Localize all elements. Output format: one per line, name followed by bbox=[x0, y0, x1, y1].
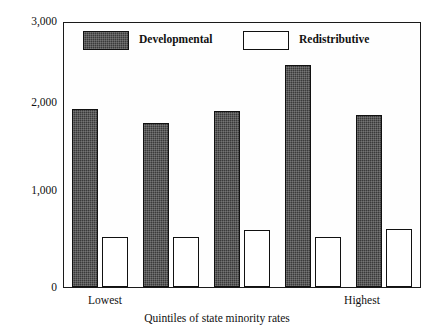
x-axis-label-lowest: Lowest bbox=[70, 294, 140, 306]
bar-developmental-q3 bbox=[214, 111, 240, 286]
x-axis-label-highest: Highest bbox=[327, 294, 397, 306]
legend-label-developmental: Developmental bbox=[139, 33, 212, 45]
bar-developmental-q2 bbox=[143, 123, 169, 287]
y-axis-tick-label: 3,000 bbox=[5, 15, 57, 27]
bar-developmental-q4 bbox=[285, 65, 311, 287]
bar-redistributive-q3 bbox=[244, 230, 270, 287]
y-axis-tick-label: 2,000 bbox=[5, 96, 57, 108]
bar-redistributive-q4 bbox=[315, 237, 341, 287]
bar-redistributive-q5 bbox=[386, 229, 412, 287]
legend-swatch-developmental-icon bbox=[83, 31, 129, 50]
bar-developmental-q5 bbox=[356, 115, 382, 287]
chart-legend: Developmental Redistributive bbox=[63, 22, 421, 66]
legend-label-redistributive: Redistributive bbox=[299, 33, 369, 45]
bar-chart-figure: 3,000 2,000 1,000 0 Developmental Redist… bbox=[0, 0, 434, 334]
legend-swatch-redistributive-icon bbox=[243, 31, 289, 50]
bar-redistributive-q2 bbox=[173, 237, 199, 287]
x-axis-title: Quintiles of state minority rates bbox=[0, 312, 434, 324]
bar-developmental-q1 bbox=[72, 109, 98, 287]
bar-redistributive-q1 bbox=[102, 237, 128, 286]
y-axis-tick-label: 0 bbox=[5, 281, 57, 293]
y-axis-tick-label: 1,000 bbox=[5, 184, 57, 196]
